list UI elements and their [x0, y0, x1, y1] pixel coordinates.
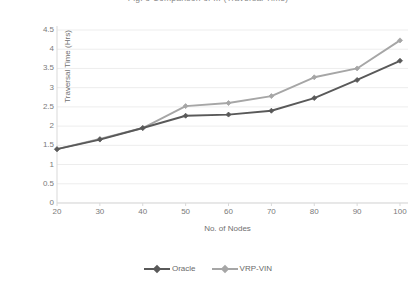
x-tick-label: 70 — [256, 207, 286, 216]
x-tick-label: 50 — [171, 207, 201, 216]
x-tick-label: 20 — [42, 207, 72, 216]
legend-diamond-icon — [153, 264, 161, 272]
data-point — [226, 112, 231, 117]
y-tick-label: 1.5 — [26, 141, 54, 149]
y-tick-label: 2.5 — [26, 103, 54, 111]
chart-container: Fig. 8 Comparison of ... (Traversal Time… — [0, 0, 416, 290]
series-line-vrp-vin — [57, 40, 400, 149]
legend-label: Oracle — [172, 264, 196, 273]
y-tick-label: 3 — [26, 84, 54, 92]
y-axis-title: Traversal Time (Hrs) — [63, 12, 72, 122]
x-axis-title: No. of Nodes — [55, 224, 400, 233]
data-point — [183, 113, 188, 118]
data-point — [55, 147, 60, 152]
data-point — [226, 101, 231, 106]
y-tick-label: 4.5 — [26, 26, 54, 34]
x-tick-label: 30 — [85, 207, 115, 216]
y-tick-label: 0 — [26, 199, 54, 207]
data-point — [269, 108, 274, 113]
y-tick-label: 0.5 — [26, 180, 54, 188]
y-tick-label: 1 — [26, 161, 54, 169]
chart-legend: OracleVRP-VIN — [0, 264, 416, 273]
y-tick-label: 2 — [26, 122, 54, 130]
chart-title: Fig. 8 Comparison of ... (Traversal Time… — [0, 0, 416, 3]
y-tick-label: 4 — [26, 45, 54, 53]
legend-swatch-icon — [212, 264, 238, 273]
legend-label: VRP-VIN — [240, 264, 272, 273]
legend-item-vrp-vin[interactable]: VRP-VIN — [212, 264, 272, 273]
legend-item-oracle[interactable]: Oracle — [144, 264, 196, 273]
legend-diamond-icon — [220, 264, 228, 272]
x-tick-label: 80 — [299, 207, 329, 216]
y-axis-tick-labels: 00.511.522.533.544.5 — [26, 0, 54, 220]
x-tick-label: 90 — [342, 207, 372, 216]
y-tick-label: 3.5 — [26, 64, 54, 72]
legend-swatch-icon — [144, 264, 170, 273]
x-tick-label: 100 — [385, 207, 415, 216]
x-tick-label: 40 — [128, 207, 158, 216]
x-tick-label: 60 — [214, 207, 244, 216]
